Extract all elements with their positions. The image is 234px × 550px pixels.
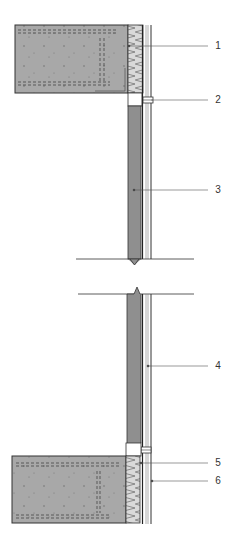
callout-label-2: 2 (213, 95, 223, 105)
callout-label-4: 4 (213, 361, 223, 371)
callout-label-3: 3 (213, 185, 223, 195)
upper-wall (128, 106, 141, 265)
bottom-joint-gap (126, 443, 141, 456)
upper-cladding (143, 25, 154, 259)
lower-cladding (141, 294, 151, 524)
top-joint-gap (128, 93, 142, 106)
lower-wall (127, 287, 141, 443)
wall-section-drawing (0, 0, 234, 550)
top-insulation (128, 25, 143, 93)
top-floor-slab (15, 25, 128, 93)
bottom-insulation (126, 456, 140, 523)
bottom-floor-slab (12, 456, 126, 523)
callout-label-6: 6 (213, 476, 223, 486)
callout-label-1: 1 (213, 41, 223, 51)
callout-label-5: 5 (213, 458, 223, 468)
